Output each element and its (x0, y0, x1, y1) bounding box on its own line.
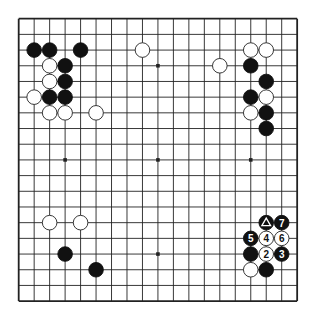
white-stone[interactable]: 4 (259, 231, 274, 246)
black-stone[interactable] (58, 247, 73, 262)
black-stone[interactable] (42, 43, 57, 58)
black-stone[interactable] (243, 90, 258, 105)
black-stone-disc (259, 106, 274, 121)
black-stone-disc (243, 90, 258, 105)
white-stone-disc (42, 215, 57, 230)
star-point (249, 158, 253, 162)
black-stone-disc (243, 58, 258, 73)
white-stone-disc (259, 43, 274, 58)
go-board[interactable]: 754623 (0, 0, 316, 324)
black-stone[interactable] (73, 43, 88, 58)
black-stone[interactable] (58, 74, 73, 89)
black-stone[interactable]: 5 (243, 231, 258, 246)
white-stone[interactable] (135, 43, 150, 58)
black-stone-disc (58, 74, 73, 89)
black-stone[interactable]: 3 (274, 247, 289, 262)
white-stone-disc (58, 106, 73, 121)
black-stone-disc (259, 74, 274, 89)
black-stone[interactable] (259, 215, 274, 230)
black-stone[interactable] (58, 90, 73, 105)
white-stone-disc (243, 43, 258, 58)
white-stone[interactable]: 6 (274, 231, 289, 246)
black-stone[interactable] (243, 247, 258, 262)
black-stone[interactable] (27, 43, 42, 58)
white-stone[interactable]: 2 (259, 247, 274, 262)
white-stone[interactable] (89, 106, 104, 121)
white-stone-disc (42, 58, 57, 73)
white-stone-disc (243, 262, 258, 277)
white-stone[interactable] (259, 90, 274, 105)
black-stone[interactable] (58, 58, 73, 73)
white-stone[interactable] (42, 58, 57, 73)
star-point (63, 158, 67, 162)
black-stone[interactable]: 7 (274, 215, 289, 230)
white-stone[interactable] (42, 106, 57, 121)
white-stone[interactable] (73, 215, 88, 230)
star-point (156, 64, 160, 68)
move-number-label: 6 (279, 233, 285, 244)
black-stone-disc (58, 58, 73, 73)
black-stone[interactable] (259, 74, 274, 89)
white-stone[interactable] (243, 262, 258, 277)
black-stone-disc (42, 90, 57, 105)
black-stone-disc (243, 247, 258, 262)
white-stone[interactable] (42, 74, 57, 89)
black-stone-disc (58, 247, 73, 262)
white-stone[interactable] (27, 90, 42, 105)
white-stone-disc (89, 106, 104, 121)
white-stone[interactable] (213, 58, 228, 73)
black-stone[interactable] (259, 262, 274, 277)
move-number-label: 2 (263, 249, 269, 260)
black-stone[interactable] (42, 90, 57, 105)
white-stone[interactable] (58, 106, 73, 121)
black-stone-disc (58, 90, 73, 105)
black-stone-disc (42, 43, 57, 58)
white-stone[interactable] (259, 43, 274, 58)
black-stone[interactable] (243, 58, 258, 73)
white-stone[interactable] (243, 43, 258, 58)
white-stone-disc (213, 58, 228, 73)
white-stone-disc (259, 90, 274, 105)
black-stone-disc (259, 121, 274, 136)
white-stone-disc (73, 215, 88, 230)
move-number-label: 7 (279, 218, 285, 229)
star-point (156, 252, 160, 256)
white-stone-disc (135, 43, 150, 58)
black-stone-disc (73, 43, 88, 58)
white-stone[interactable] (42, 215, 57, 230)
black-stone[interactable] (89, 262, 104, 277)
star-point (156, 158, 160, 162)
white-stone-disc (42, 74, 57, 89)
black-stone-disc (27, 43, 42, 58)
white-stone-disc (27, 90, 42, 105)
white-stone-disc (243, 106, 258, 121)
black-stone-disc (259, 262, 274, 277)
white-stone-disc (42, 106, 57, 121)
black-stone-disc (89, 262, 104, 277)
black-stone[interactable] (259, 121, 274, 136)
move-number-label: 3 (279, 249, 285, 260)
black-stone[interactable] (259, 106, 274, 121)
white-stone[interactable] (243, 106, 258, 121)
go-board-canvas[interactable]: 754623 (0, 0, 316, 324)
move-number-label: 4 (263, 233, 269, 244)
move-number-label: 5 (248, 233, 254, 244)
